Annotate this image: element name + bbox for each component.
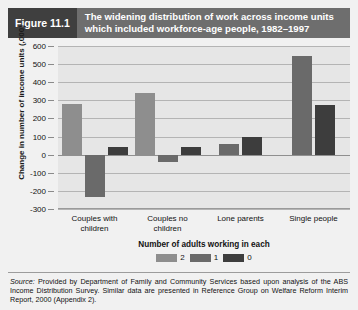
- figure-header: Figure 11.1 The widening distribution of…: [8, 8, 350, 38]
- figure-title-line-1: The widening distribution of work across…: [85, 11, 334, 22]
- y-axis-tick-label: 200: [33, 114, 46, 123]
- x-axis-category-label-line: Single people: [277, 214, 350, 224]
- x-axis-category-label: Couples nochildren: [131, 214, 204, 233]
- y-axis-tick: [48, 118, 54, 119]
- bar-series-container: [58, 46, 350, 209]
- legend-item[interactable]: 2: [156, 253, 184, 262]
- legend-label: 1: [214, 253, 218, 262]
- chart: Change in number of income units (,000) …: [0, 42, 358, 267]
- y-axis-tick: [48, 82, 54, 83]
- x-axis-category-label-line: Lone parents: [204, 214, 277, 224]
- figure-title: The widening distribution of work across…: [77, 8, 350, 38]
- y-axis-tick: [48, 155, 54, 156]
- y-axis-tick-label: -200: [30, 186, 46, 195]
- source-note: Source: Provided by Department of Family…: [10, 277, 348, 304]
- legend-label: 0: [247, 253, 251, 262]
- x-axis-category-label: Couples withchildren: [58, 214, 131, 233]
- y-axis-tick-label: 300: [33, 96, 46, 105]
- legend-title: Number of adults working in each: [58, 240, 350, 249]
- gridline: [58, 209, 350, 210]
- y-axis-tick-label: -100: [30, 168, 46, 177]
- bar: [158, 155, 178, 162]
- y-axis-tick: [48, 137, 54, 138]
- y-axis-tick: [48, 209, 54, 210]
- legend-swatch: [223, 254, 244, 262]
- legend-item[interactable]: 1: [190, 253, 218, 262]
- legend-label: 2: [180, 253, 184, 262]
- x-axis-category-label: Single people: [277, 214, 350, 224]
- source-divider: [8, 272, 350, 273]
- bar: [135, 93, 155, 155]
- bar: [219, 144, 239, 155]
- legend-item[interactable]: 0: [223, 253, 251, 262]
- source-text: Provided by Department of Family and Com…: [10, 277, 348, 304]
- y-axis-tick-label: 100: [33, 132, 46, 141]
- y-axis-tick-label: 400: [33, 78, 46, 87]
- x-axis-category-label-line: children: [131, 224, 204, 234]
- y-axis-tick-label: -300: [30, 205, 46, 214]
- y-axis-tick-label: 600: [33, 42, 46, 51]
- x-axis-category-label: Lone parents: [204, 214, 277, 224]
- bar: [108, 147, 128, 154]
- bar: [181, 147, 201, 155]
- legend-swatch: [190, 254, 211, 262]
- x-axis-category-label-line: children: [58, 224, 131, 234]
- y-axis-tick: [48, 191, 54, 192]
- bar: [292, 56, 312, 155]
- bar: [242, 137, 262, 154]
- legend-swatch: [156, 254, 177, 262]
- y-axis-tick: [48, 46, 54, 47]
- y-axis-tick: [48, 100, 54, 101]
- y-axis-tick: [48, 173, 54, 174]
- x-axis-labels: Couples withchildrenCouples nochildrenLo…: [58, 212, 350, 238]
- y-axis-tick-label: 500: [33, 60, 46, 69]
- y-axis-tick-label: 0: [42, 150, 46, 159]
- bar: [315, 105, 335, 155]
- plot-area: [58, 46, 350, 209]
- x-axis-category-label-line: Couples no: [131, 214, 204, 224]
- source-label: Source:: [10, 277, 35, 286]
- y-axis-tick: [48, 64, 54, 65]
- figure-title-line-2: which included workforce-age people, 198…: [85, 23, 344, 35]
- legend: 210: [58, 253, 350, 262]
- figure-container: Figure 11.1 The widening distribution of…: [0, 0, 358, 310]
- x-axis-category-label-line: Couples with: [58, 214, 131, 224]
- bar: [62, 104, 82, 155]
- bar: [85, 155, 105, 198]
- y-axis-labels: 6005004003002001000-100-200-300: [0, 46, 54, 209]
